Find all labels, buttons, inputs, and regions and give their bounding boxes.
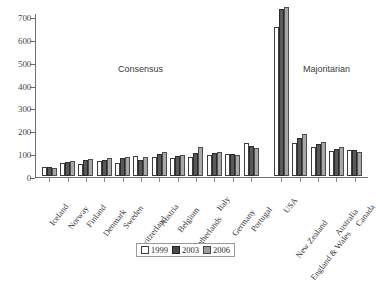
bar-2006 bbox=[284, 7, 289, 176]
y-tick-label: 500 bbox=[18, 59, 31, 69]
x-tick-label: Italy bbox=[215, 194, 232, 212]
y-tick-label: 400 bbox=[18, 82, 31, 92]
bar-2006 bbox=[143, 157, 148, 176]
bar-group bbox=[205, 16, 223, 176]
legend-item: 2003 bbox=[172, 245, 199, 255]
bar-group bbox=[187, 16, 205, 176]
bar-2006 bbox=[88, 159, 93, 176]
bar-2006 bbox=[217, 152, 222, 176]
bar-group bbox=[132, 16, 150, 176]
bar-2006 bbox=[357, 152, 362, 176]
legend-swatch-1999 bbox=[141, 246, 149, 254]
legend-swatch-2006 bbox=[203, 246, 211, 254]
bar-2006 bbox=[162, 152, 167, 176]
bar-group bbox=[224, 16, 242, 176]
y-tick-label: 200 bbox=[18, 127, 31, 137]
bar-2006 bbox=[235, 155, 240, 176]
legend-label: 1999 bbox=[151, 245, 168, 255]
y-tick-label: 100 bbox=[18, 150, 31, 160]
bar-group bbox=[150, 16, 168, 176]
x-axis-labels: IcelandNorwayFinlandDenmarkSwedenSwitzer… bbox=[36, 182, 368, 244]
bar-2006 bbox=[302, 134, 307, 177]
bar-group bbox=[95, 16, 113, 176]
bar-2006 bbox=[339, 147, 344, 176]
bar-group bbox=[272, 16, 290, 176]
legend-label: 2003 bbox=[182, 245, 199, 255]
bar-group bbox=[113, 16, 131, 176]
bar-2006 bbox=[52, 168, 57, 176]
legend-label: 2006 bbox=[213, 245, 230, 255]
y-tick-label: 600 bbox=[18, 36, 31, 46]
legend-item: 2006 bbox=[203, 245, 230, 255]
bar-2006 bbox=[254, 148, 259, 176]
x-tick-label: USA bbox=[281, 195, 299, 215]
y-tick-label: 700 bbox=[18, 13, 31, 23]
bar-groups bbox=[36, 16, 368, 176]
bar-2006 bbox=[198, 147, 203, 176]
legend-item: 1999 bbox=[141, 245, 168, 255]
bar-group bbox=[327, 16, 345, 176]
bar-group bbox=[58, 16, 76, 176]
bar-group bbox=[291, 16, 309, 176]
x-tick-label: New Zealand bbox=[293, 218, 329, 260]
bar-group bbox=[346, 16, 364, 176]
bar-group bbox=[242, 16, 260, 176]
bar-group bbox=[77, 16, 95, 176]
bar-group bbox=[40, 16, 58, 176]
y-tick-label: 0 bbox=[27, 173, 31, 183]
bar-group bbox=[309, 16, 327, 176]
chart-legend: 199920032006 bbox=[136, 243, 235, 257]
plot-area bbox=[36, 16, 368, 176]
bar-2006 bbox=[125, 157, 130, 176]
annotation-consensus: Consensus bbox=[118, 64, 163, 74]
bar-2006 bbox=[321, 142, 326, 176]
y-tick-label: 300 bbox=[18, 104, 31, 114]
bar-2006 bbox=[180, 155, 185, 176]
annotation-majoritarian: Majoritarian bbox=[303, 64, 350, 74]
legend-swatch-2003 bbox=[172, 246, 180, 254]
bar-2006 bbox=[107, 158, 112, 176]
bar-group bbox=[168, 16, 186, 176]
bar-2006 bbox=[70, 161, 75, 176]
